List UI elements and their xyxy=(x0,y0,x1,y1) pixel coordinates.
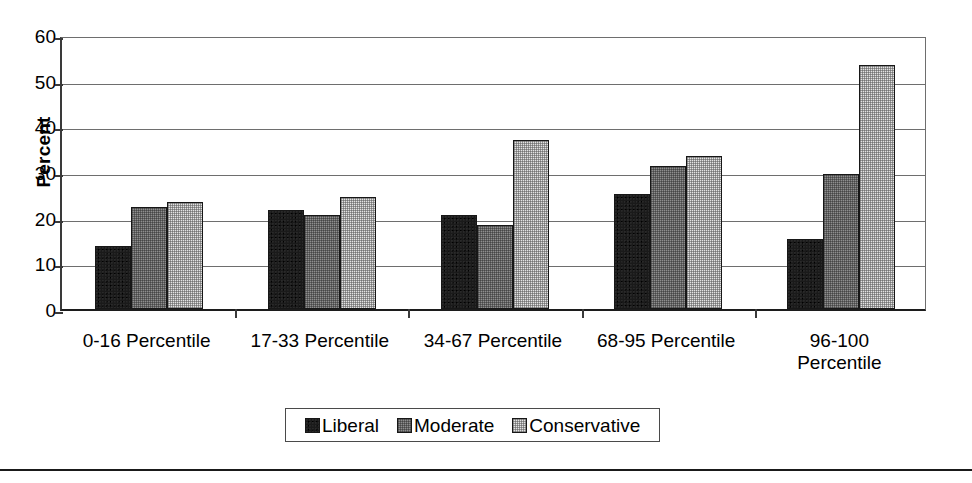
x-tick-mark-2 xyxy=(408,309,410,318)
y-tick-label-40: 40 xyxy=(16,118,56,137)
y-tick-mark-0 xyxy=(55,312,63,314)
gridline-40 xyxy=(62,129,925,130)
footer-rule xyxy=(0,469,972,471)
x-category-label-2: 17-33 Percentile xyxy=(233,330,406,352)
chart-legend: LiberalModerateConservative xyxy=(285,408,660,442)
x-category-label-3: 34-67 Percentile xyxy=(406,330,579,352)
x-tick-mark-3 xyxy=(582,309,584,318)
plot-area xyxy=(60,37,926,311)
y-tick-mark-30 xyxy=(55,175,63,177)
x-category-label-4: 68-95 Percentile xyxy=(580,330,753,352)
bar-liberal-group-5 xyxy=(787,239,823,309)
x-tick-mark-4 xyxy=(755,309,757,318)
legend-label-liberal: Liberal xyxy=(322,416,379,435)
y-tick-mark-40 xyxy=(55,129,63,131)
y-tick-label-20: 20 xyxy=(16,210,56,229)
legend-item-moderate[interactable]: Moderate xyxy=(397,416,494,435)
bar-conservative-group-3 xyxy=(513,140,549,309)
legend-item-conservative[interactable]: Conservative xyxy=(512,416,640,435)
bar-moderate-group-3 xyxy=(477,225,513,309)
y-tick-label-60: 60 xyxy=(16,27,56,46)
x-category-label-1: 0-16 Percentile xyxy=(60,330,233,352)
y-tick-mark-60 xyxy=(55,38,63,40)
y-tick-label-10: 10 xyxy=(16,255,56,274)
bar-conservative-group-1 xyxy=(167,202,203,309)
bar-conservative-group-5 xyxy=(859,65,895,309)
bar-chart-figure: Percent 6050403020100 0-16 Percentile17-… xyxy=(0,0,972,483)
legend-swatch-conservative-icon xyxy=(512,418,527,433)
y-tick-mark-50 xyxy=(55,84,63,86)
y-axis-tick-labels: 6050403020100 xyxy=(10,0,56,483)
legend-swatch-liberal-icon xyxy=(305,418,320,433)
x-category-label-5: 96-100 Percentile xyxy=(753,330,926,374)
gridline-30 xyxy=(62,175,925,176)
bar-liberal-group-1 xyxy=(95,246,131,309)
bar-liberal-group-3 xyxy=(441,215,477,309)
legend-item-liberal[interactable]: Liberal xyxy=(305,416,379,435)
bar-liberal-group-2 xyxy=(268,210,304,309)
bar-liberal-group-4 xyxy=(614,194,650,309)
legend-swatch-moderate-icon xyxy=(397,418,412,433)
y-tick-label-0: 0 xyxy=(16,301,56,320)
bar-conservative-group-2 xyxy=(340,197,376,309)
x-tick-mark-1 xyxy=(235,309,237,318)
y-tick-label-50: 50 xyxy=(16,73,56,92)
y-tick-label-30: 30 xyxy=(16,164,56,183)
y-tick-mark-20 xyxy=(55,221,63,223)
y-tick-mark-10 xyxy=(55,266,63,268)
gridline-50 xyxy=(62,84,925,85)
bar-moderate-group-2 xyxy=(304,215,340,309)
legend-label-moderate: Moderate xyxy=(414,416,494,435)
bar-moderate-group-1 xyxy=(131,207,167,309)
bar-moderate-group-4 xyxy=(650,166,686,309)
bar-moderate-group-5 xyxy=(823,174,859,309)
bar-conservative-group-4 xyxy=(686,156,722,309)
legend-label-conservative: Conservative xyxy=(529,416,640,435)
